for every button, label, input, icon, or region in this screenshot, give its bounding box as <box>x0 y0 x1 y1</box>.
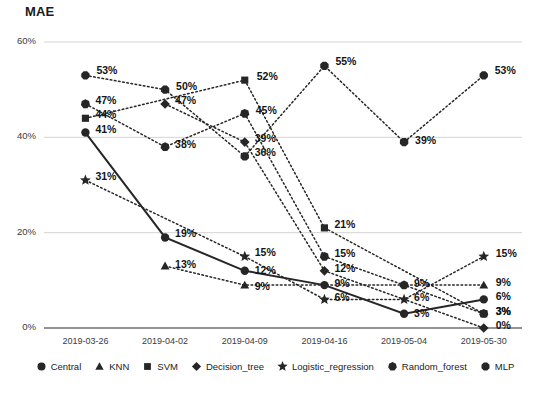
plot-canvas <box>0 0 550 393</box>
octagon-icon <box>480 361 491 372</box>
x-tick-2019-04-09: 2019-04-09 <box>200 336 290 346</box>
circle-glyph <box>37 363 45 371</box>
value-label-mlp-3: 55% <box>335 55 356 67</box>
value-label-decision_tree-3: 12% <box>334 262 355 274</box>
marker-central-5 <box>480 295 488 303</box>
value-label-mlp-2: 36% <box>255 146 276 158</box>
marker-central-4 <box>400 310 408 318</box>
value-label-mlp-4: 39% <box>415 134 436 146</box>
mae-line-chart: MAE 0%20%40%60% 2019-03-262019-04-022019… <box>0 0 550 393</box>
value-label-central-1: 19% <box>175 227 196 239</box>
value-label-central-5: 6% <box>496 290 511 302</box>
value-label-knn-2: 9% <box>255 280 270 292</box>
legend-label: Random_forest <box>402 361 467 372</box>
value-label-central-0: 41% <box>95 123 116 135</box>
value-label-logistic_regression-5: 15% <box>496 247 517 259</box>
marker-knn-1 <box>161 262 170 270</box>
value-label-decision_tree-5: 0% <box>496 319 511 331</box>
value-label-decision_tree-2: 39% <box>255 132 276 144</box>
marker-decision_tree-5 <box>479 323 489 333</box>
value-label-knn-5: 9% <box>496 276 511 288</box>
star-glyph <box>277 361 287 371</box>
value-label-random_forest-4: 9% <box>414 277 429 289</box>
marker-central-0 <box>81 128 89 136</box>
value-label-random_forest-1: 38% <box>175 138 196 150</box>
marker-random_forest-2 <box>240 109 249 118</box>
legend-label: KNN <box>109 361 129 372</box>
marker-random_forest-0 <box>81 99 90 108</box>
marker-mlp-2 <box>241 152 249 160</box>
star-icon <box>277 361 288 372</box>
value-label-logistic_regression-2: 15% <box>255 246 276 258</box>
legend-item-logistic_regression[interactable]: Logistic_regression <box>277 361 374 372</box>
marker-svm-3 <box>321 224 328 231</box>
marker-mlp-4 <box>400 138 408 146</box>
marker-mlp-5 <box>480 71 488 79</box>
value-label-central-2: 12% <box>255 264 276 276</box>
marker-svm-0 <box>82 115 89 122</box>
value-label-logistic_regression-0: 31% <box>95 170 116 182</box>
value-label-central-3: 9% <box>334 277 349 289</box>
legend-label: Logistic_regression <box>292 361 374 372</box>
chart-legend: CentralKNNSVMDecision_treeLogistic_regre… <box>0 361 550 372</box>
marker-logistic_regression-2 <box>239 251 250 261</box>
y-tick-20: 20% <box>2 226 36 237</box>
marker-decision_tree-1 <box>160 99 170 109</box>
value-label-logistic_regression-3: 6% <box>334 291 349 303</box>
legend-label: Decision_tree <box>206 361 264 372</box>
square-icon <box>142 361 153 372</box>
heptagon-glyph <box>388 362 397 370</box>
value-label-mlp-0: 53% <box>96 64 117 76</box>
y-tick-40: 40% <box>2 130 36 141</box>
legend-label: MLP <box>495 361 515 372</box>
x-tick-2019-05-04: 2019-05-04 <box>359 336 449 346</box>
marker-mlp-3 <box>320 62 328 70</box>
legend-item-central[interactable]: Central <box>36 361 82 372</box>
value-label-random_forest-3: 15% <box>334 247 355 259</box>
octagon-glyph <box>481 363 489 371</box>
legend-item-svm[interactable]: SVM <box>142 361 178 372</box>
marker-knn-5 <box>479 281 488 289</box>
marker-logistic_regression-0 <box>80 175 91 185</box>
marker-central-2 <box>241 267 249 275</box>
legend-label: SVM <box>157 361 178 372</box>
marker-decision_tree-2 <box>240 137 250 147</box>
x-tick-2019-04-16: 2019-04-16 <box>279 336 369 346</box>
legend-item-knn[interactable]: KNN <box>94 361 129 372</box>
legend-item-mlp[interactable]: MLP <box>480 361 515 372</box>
legend-label: Central <box>51 361 82 372</box>
value-label-mlp-1: 50% <box>176 80 197 92</box>
x-tick-2019-03-26: 2019-03-26 <box>40 336 130 346</box>
marker-random_forest-3 <box>320 252 329 261</box>
legend-item-decision_tree[interactable]: Decision_tree <box>191 361 264 372</box>
marker-central-1 <box>161 233 169 241</box>
value-label-svm-3: 21% <box>334 218 355 230</box>
marker-logistic_regression-5 <box>478 251 489 261</box>
value-label-svm-0: 44% <box>95 108 116 120</box>
legend-item-random_forest[interactable]: Random_forest <box>387 361 467 372</box>
triangle-icon <box>94 361 105 372</box>
diamond-glyph <box>192 362 201 371</box>
marker-logistic_regression-4 <box>399 294 410 304</box>
value-label-random_forest-5: 3% <box>496 305 511 317</box>
value-label-logistic_regression-4: 6% <box>414 291 429 303</box>
triangle-glyph <box>96 362 104 369</box>
marker-random_forest-4 <box>400 280 409 289</box>
square-glyph <box>144 363 151 370</box>
y-tick-0: 0% <box>2 321 36 332</box>
value-label-random_forest-0: 47% <box>95 94 116 106</box>
value-label-mlp-5: 53% <box>495 64 516 76</box>
value-label-knn-1: 13% <box>175 258 196 270</box>
circle-icon <box>36 361 47 372</box>
value-label-random_forest-2: 45% <box>256 104 277 116</box>
x-tick-2019-04-02: 2019-04-02 <box>120 336 210 346</box>
value-label-central-4: 3% <box>414 307 429 319</box>
marker-decision_tree-3 <box>320 266 330 276</box>
marker-mlp-0 <box>81 71 89 79</box>
heptagon-icon <box>387 361 398 372</box>
marker-mlp-1 <box>161 85 169 93</box>
marker-logistic_regression-3 <box>319 294 330 304</box>
value-label-svm-2: 52% <box>257 70 278 82</box>
value-label-decision_tree-1: 47% <box>175 94 196 106</box>
diamond-icon <box>191 361 202 372</box>
